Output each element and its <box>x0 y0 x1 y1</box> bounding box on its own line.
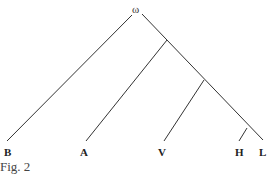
edge-root-L <box>142 14 263 140</box>
edge-n3-H <box>239 128 247 141</box>
stemma-tree <box>0 0 268 174</box>
leaf-label-V: V <box>158 147 166 158</box>
figure-caption: Fig. 2 <box>0 160 30 173</box>
edge-n2-V <box>164 80 204 141</box>
edge-n1-A <box>86 40 167 141</box>
leaf-label-A: A <box>80 147 88 158</box>
leaf-label-B: B <box>4 147 11 158</box>
leaf-label-H: H <box>235 147 244 158</box>
edge-root-B <box>7 15 132 141</box>
root-label-omega: ω <box>132 4 139 15</box>
leaf-label-L: L <box>259 147 266 158</box>
